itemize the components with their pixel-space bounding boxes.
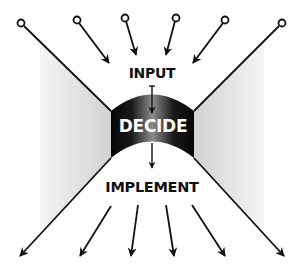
input-source-circle-icon xyxy=(74,17,81,24)
output-arrow-3 xyxy=(131,205,138,256)
input-arrow-3 xyxy=(126,21,136,55)
output-arrow-5 xyxy=(192,205,225,256)
input-source-circle-icon xyxy=(18,20,25,27)
decide-to-implement-arrow xyxy=(149,143,155,168)
input-source-circle-icon xyxy=(122,15,129,22)
input-source-circle-icon xyxy=(222,17,229,24)
input-arrow-4 xyxy=(166,21,175,55)
input-arrow-5 xyxy=(193,23,223,63)
implement-label: IMPLEMENT xyxy=(0,179,304,195)
input-label: INPUT xyxy=(0,65,304,81)
output-arrow-4 xyxy=(166,205,174,256)
decide-label: DECIDE xyxy=(111,116,195,136)
input-source-circles xyxy=(18,15,286,27)
output-arrow-2 xyxy=(80,206,111,256)
input-source-circle-icon xyxy=(173,15,180,22)
input-arrow-2 xyxy=(79,23,109,63)
input-source-circle-icon xyxy=(279,20,286,27)
